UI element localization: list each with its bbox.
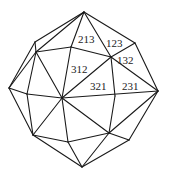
polyhedron-diagram: 213 123 132 312 321 231 bbox=[0, 0, 169, 176]
label-213: 213 bbox=[78, 33, 95, 45]
label-312: 312 bbox=[71, 63, 88, 75]
label-123: 123 bbox=[106, 37, 123, 49]
label-321: 321 bbox=[90, 80, 107, 92]
label-132: 132 bbox=[117, 54, 134, 66]
label-231: 231 bbox=[122, 80, 139, 92]
